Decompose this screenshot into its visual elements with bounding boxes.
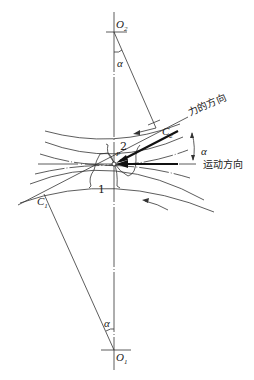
gear1-outer-curve bbox=[20, 188, 214, 212]
label-gear-1: 1 bbox=[98, 184, 105, 195]
rotation-arrow-lower bbox=[145, 201, 168, 210]
label-o2: O2 bbox=[116, 19, 127, 33]
label-o1: O1 bbox=[116, 352, 127, 366]
alpha-arc-top bbox=[114, 50, 122, 52]
pitch-point bbox=[112, 162, 116, 166]
label-c1: C1 bbox=[37, 196, 48, 210]
alpha-arc-bottom bbox=[106, 329, 114, 331]
gear1-tooth-left bbox=[90, 153, 114, 186]
label-alpha-top: α bbox=[117, 58, 123, 69]
gear1-pitch-curve bbox=[35, 165, 190, 178]
label-c2: C2 bbox=[162, 126, 173, 140]
label-alpha-bottom: α bbox=[104, 318, 110, 329]
label-alpha-right: α bbox=[201, 146, 207, 157]
gear2-tooth-left-top bbox=[106, 144, 108, 145]
label-p: P bbox=[116, 151, 120, 158]
rotation-arrow-upper-head bbox=[133, 130, 140, 135]
label-gear-2: 2 bbox=[120, 141, 127, 152]
alpha-arc-arrow-bottom bbox=[191, 155, 195, 161]
gear-diagram bbox=[0, 0, 254, 380]
label-motion-direction: 运动方向 bbox=[203, 160, 243, 170]
alpha-arc-arrow-top bbox=[190, 132, 194, 138]
line-o2-c2 bbox=[114, 32, 156, 128]
gear1-tooth-left-foot bbox=[89, 186, 91, 188]
rotation-arrow-lower-head bbox=[142, 198, 149, 203]
